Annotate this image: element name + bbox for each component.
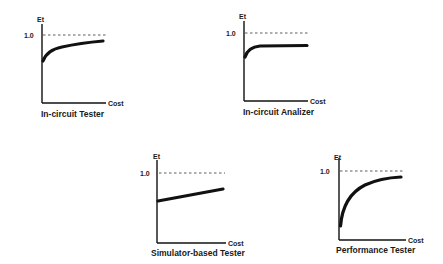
y-axis-label: Et [334,154,342,161]
reference-label: 1.0 [140,170,150,177]
chart-in-circuit-tester: Et 1.0 Cost In-circuit Tester [24,16,124,119]
chart-title: Performance Tester [336,245,416,255]
chart-title: In-circuit Tester [41,109,105,119]
x-axis-label: Cost [108,100,124,107]
y-axis-label: Et [37,16,45,23]
chart-title: Simulator-based Tester [151,248,246,258]
x-axis-label: Cost [408,237,424,244]
reference-label: 1.0 [320,168,330,175]
chart-simulator-based-tester: Et 1.0 Cost Simulator-based Tester [140,153,246,258]
reference-label: 1.0 [24,32,34,39]
chart-in-circuit-analizer: Et 1.0 Cost In-circuit Analizer [226,13,326,117]
x-axis-label: Cost [228,240,244,247]
diagram-canvas: Et 1.0 Cost In-circuit Tester Et 1.0 Cos… [0,0,443,264]
curve [43,41,103,61]
chart-performance-tester: Et 1.0 Cost Performance Tester [320,154,424,255]
curve [158,189,223,201]
chart-title: In-circuit Analizer [243,107,315,117]
y-axis-label: Et [153,153,161,160]
y-axis-label: Et [239,13,247,20]
x-axis-label: Cost [310,98,326,105]
curve [341,177,402,226]
reference-label: 1.0 [226,30,236,37]
curve [245,46,307,58]
